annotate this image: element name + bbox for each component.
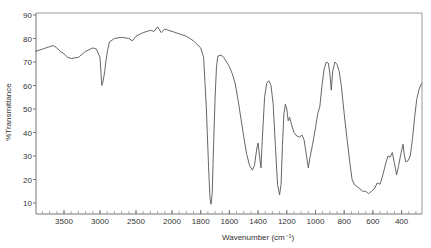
x-tick-label: 1400 — [249, 217, 267, 226]
y-tick-label: 10 — [23, 199, 32, 208]
x-tick-label: 600 — [366, 217, 380, 226]
x-tick-label: 1200 — [278, 217, 296, 226]
y-tick-label: 50 — [23, 105, 32, 114]
x-tick-label: 400 — [395, 217, 409, 226]
x-axis-label: Wavenumber (cm⁻¹) — [222, 233, 294, 242]
x-tick-label: 3500 — [55, 217, 73, 226]
ir-spectrum-chart: 102030405060708090 350030002500200018001… — [0, 0, 431, 248]
x-tick-label: 2000 — [163, 217, 181, 226]
plot-frame — [36, 13, 422, 214]
y-tick-label: 60 — [23, 82, 32, 91]
x-tick-label: 1600 — [221, 217, 239, 226]
spectrum-line — [35, 27, 422, 204]
y-tick-label: 40 — [23, 129, 32, 138]
x-axis-ticks: 3500300025002000180016001400120010008006… — [42, 210, 416, 226]
y-axis-label: %Transmittance — [4, 83, 13, 141]
y-tick-label: 70 — [23, 58, 32, 67]
x-tick-label: 2500 — [127, 217, 145, 226]
y-tick-label: 90 — [23, 11, 32, 20]
y-tick-label: 20 — [23, 176, 32, 185]
x-tick-label: 800 — [338, 217, 352, 226]
y-tick-label: 30 — [23, 152, 32, 161]
spectrum-series — [35, 27, 422, 204]
x-tick-label: 1800 — [192, 217, 210, 226]
y-tick-label: 80 — [23, 35, 32, 44]
x-tick-label: 3000 — [91, 217, 109, 226]
x-tick-label: 1000 — [307, 217, 325, 226]
y-axis-ticks: 102030405060708090 — [23, 11, 36, 208]
